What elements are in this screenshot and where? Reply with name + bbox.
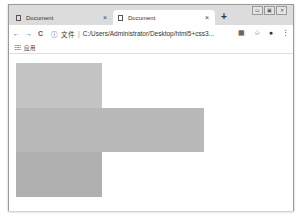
document-icon xyxy=(118,15,123,21)
forward-button[interactable]: → xyxy=(24,30,33,37)
close-window-button[interactable]: ✕ xyxy=(276,6,287,15)
browser-window: Document × Document × + ▭ ▣ ✕ ← → C ⓘ 文件… xyxy=(8,4,294,211)
page-viewport xyxy=(9,54,293,211)
tab-title: Document xyxy=(128,15,155,21)
toolbar-actions: ▦ ☆ ● ⋮ xyxy=(238,29,289,37)
new-tab-button[interactable]: + xyxy=(221,11,227,22)
gray-box-1 xyxy=(16,63,102,108)
url-text[interactable]: C:/Users/Administrator/Desktop/html5+css… xyxy=(83,30,214,37)
document-icon xyxy=(16,15,21,21)
address-bar[interactable]: ⓘ 文件 | C:/Users/Administrator/Desktop/ht… xyxy=(51,29,214,39)
gray-box-3 xyxy=(16,152,102,197)
tab-document-1[interactable]: Document × xyxy=(11,10,113,25)
separator: | xyxy=(78,30,80,37)
info-icon[interactable]: ⓘ xyxy=(51,29,58,39)
close-tab-icon[interactable]: × xyxy=(103,14,107,21)
apps-link[interactable]: 应用 xyxy=(24,44,36,52)
maximize-button[interactable]: ▣ xyxy=(264,6,275,15)
menu-icon[interactable]: ⋮ xyxy=(282,29,289,37)
browser-toolbar: ← → C ⓘ 文件 | C:/Users/Administrator/Desk… xyxy=(9,25,293,42)
apps-grid-icon[interactable]: ⠿⠿ xyxy=(14,45,20,51)
reload-button[interactable]: C xyxy=(36,30,45,37)
tab-strip: Document × Document × + ▭ ▣ ✕ xyxy=(9,5,293,25)
scheme-label: 文件 xyxy=(61,29,75,39)
tab-title: Document xyxy=(26,15,53,21)
bookmarks-bar: ⠿⠿ 应用 xyxy=(9,42,293,54)
gray-box-2 xyxy=(16,108,204,152)
window-controls: ▭ ▣ ✕ xyxy=(252,6,287,15)
tab-document-2[interactable]: Document × xyxy=(113,10,215,25)
minimize-button[interactable]: ▭ xyxy=(252,6,263,15)
translate-icon[interactable]: ▦ xyxy=(238,29,245,37)
account-icon[interactable]: ● xyxy=(269,29,273,37)
close-tab-icon[interactable]: × xyxy=(205,14,209,21)
bookmark-star-icon[interactable]: ☆ xyxy=(254,29,260,37)
back-button[interactable]: ← xyxy=(12,30,21,37)
